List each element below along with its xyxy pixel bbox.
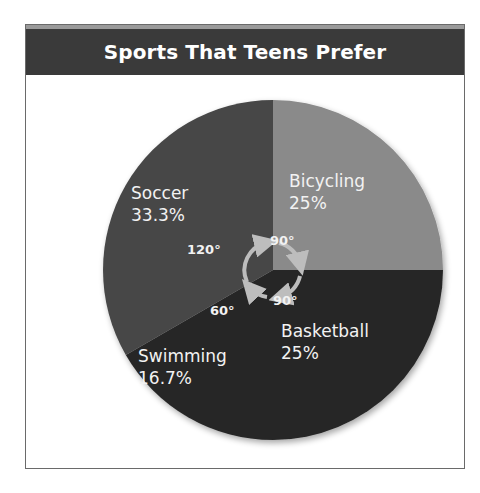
label-basketball-pct: 25% (281, 343, 319, 363)
angle-soccer: 120° (187, 242, 221, 257)
label-soccer-pct: 33.3% (131, 205, 185, 225)
angle-swimming: 60° (210, 303, 235, 318)
angle-bicycling: 90° (270, 233, 295, 248)
label-bicycling-name: Bicycling (289, 171, 365, 191)
label-soccer-name: Soccer (131, 183, 188, 203)
pie-chart: Bicycling 25% Soccer 33.3% Basketball 25… (0, 0, 480, 493)
label-swimming-name: Swimming (138, 346, 227, 366)
label-bicycling-pct: 25% (289, 193, 327, 213)
angle-basketball: 90° (273, 293, 298, 308)
label-swimming-pct: 16.7% (138, 368, 192, 388)
label-basketball-name: Basketball (281, 321, 369, 341)
